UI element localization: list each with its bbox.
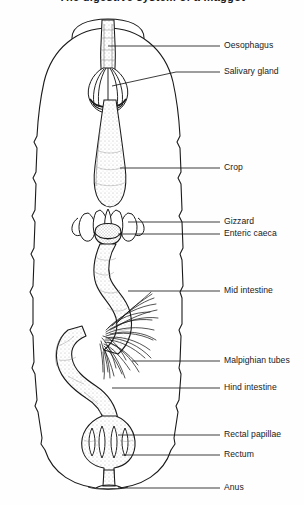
label-gizzard: Gizzard [224,217,254,226]
label-crop: Crop [224,163,243,172]
label-rectum: Rectum [224,450,254,459]
label-malpighian-tubes: Malpighian tubes [224,356,290,365]
label-rectal-papillae: Rectal papillae [224,430,281,439]
anus-shape [103,470,115,486]
label-anus: Anus [224,483,244,492]
label-mid-intestine: Mid intestine [224,286,273,295]
label-enteric-caeca: Enteric caeca [224,229,277,238]
gizzard-shape [95,224,121,246]
figure-page: The digestive system of a maggot [0,0,304,505]
label-oesophagus: Oesophagus [224,41,273,50]
label-hind-intestine: Hind intestine [224,383,277,392]
label-salivary-gland: Salivary gland [224,67,279,76]
